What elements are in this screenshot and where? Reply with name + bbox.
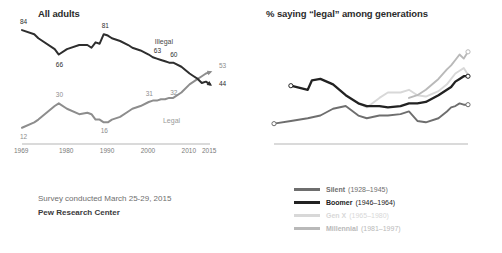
data-point-label: 63: [154, 48, 161, 55]
x-axis-tick-2010: 2010: [182, 148, 196, 155]
legend-label-years: (1965–1980): [349, 212, 389, 219]
legend-swatch-icon: [294, 201, 320, 204]
data-point-label: 30: [56, 92, 63, 99]
data-point-label: 31: [146, 91, 153, 98]
series-line-legal: [22, 72, 210, 128]
data-point-marker: [466, 50, 470, 54]
legend-item-silent: Silent(1928–1945): [294, 183, 401, 196]
legend-label-years: (1928–1945): [348, 186, 388, 193]
data-point-label: 44: [219, 81, 226, 88]
legend-label-years: (1981–1997): [361, 225, 401, 232]
data-point-marker: [466, 103, 470, 107]
legend-item-millennial: Millennial(1981–1997): [294, 222, 401, 235]
data-point-marker: [272, 122, 276, 126]
legend-generations: Silent(1928–1945)Boomer(1946–1964)Gen X(…: [294, 183, 401, 235]
survey-date-text: Survey conducted March 25-29, 2015: [38, 193, 171, 205]
data-point-label: 60: [170, 52, 177, 59]
legend-swatch-icon: [294, 214, 320, 217]
x-axis-tick-2015: 2015: [202, 148, 216, 155]
legend-label-name: Gen X: [326, 212, 346, 219]
x-axis-tick-2000: 2000: [141, 148, 155, 155]
series-line-boomer: [291, 76, 468, 107]
series-end-arrow: [207, 71, 212, 76]
chart-panel-all-adults: All adults 846681636044123016313253 1969…: [0, 0, 252, 253]
data-point-marker: [289, 84, 293, 88]
data-point-label: 66: [56, 62, 63, 69]
source-attribution: Pew Research Center: [38, 207, 171, 219]
series-label-illegal: Illegal: [155, 38, 173, 45]
legend-swatch-icon: [294, 188, 320, 191]
line-chart-generations: [252, 0, 502, 165]
data-point-label: 53: [219, 63, 226, 70]
legend-label-name: Silent: [326, 186, 345, 193]
data-point-marker: [466, 74, 470, 78]
legend-swatch-icon: [294, 227, 320, 230]
data-point-label: 16: [101, 128, 108, 135]
x-axis-tick-1980: 1980: [59, 148, 73, 155]
data-point-label: 81: [102, 23, 109, 30]
data-point-label: 32: [170, 90, 177, 97]
legend-label-years: (1946–1964): [355, 199, 395, 206]
series-label-legal: Legal: [163, 117, 180, 124]
legend-item-gen-x: Gen X(1965–1980): [294, 209, 401, 222]
x-axis-tick-1969: 1969: [14, 148, 28, 155]
series-line-illegal: [22, 30, 210, 84]
line-chart-all-adults: [0, 0, 252, 165]
legend-label-name: Millennial: [326, 225, 358, 232]
data-point-label: 12: [20, 134, 27, 141]
data-point-label: 84: [20, 19, 27, 26]
legend-item-boomer: Boomer(1946–1964): [294, 196, 401, 209]
legend-label-name: Boomer: [326, 199, 352, 206]
x-axis-tick-1990: 1990: [100, 148, 114, 155]
footer-note: Survey conducted March 25-29, 2015 Pew R…: [38, 193, 171, 218]
